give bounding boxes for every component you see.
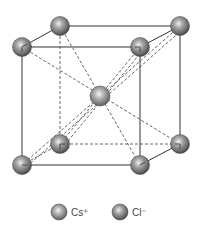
legend-item-cl: Cl⁻ — [112, 204, 146, 220]
legend: Cs⁺ Cl⁻ — [51, 204, 146, 220]
legend-cl-label: Cl⁻ — [132, 207, 146, 218]
cs-atom-body-center — [90, 86, 110, 106]
atoms — [13, 17, 190, 175]
cscl-unit-cell-diagram: Cs⁺ Cl⁻ — [0, 0, 199, 227]
legend-cl-sphere-icon — [112, 204, 128, 220]
legend-cs-sphere-icon — [51, 204, 67, 220]
legend-cs-label: Cs⁺ — [71, 207, 88, 218]
cl-atom-back-top-left — [51, 17, 70, 36]
legend-item-cs: Cs⁺ — [51, 204, 88, 220]
cl-atom-back-top-right — [171, 17, 190, 36]
